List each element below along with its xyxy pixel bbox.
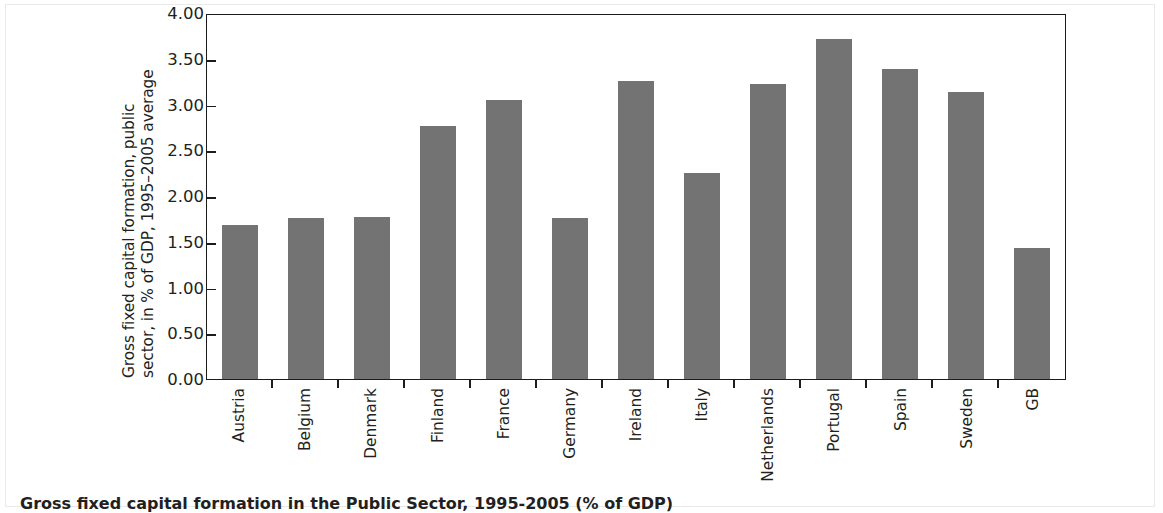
bar[interactable] — [288, 218, 325, 379]
bar-slot — [471, 15, 537, 379]
x-axis-label-slot: Germany — [537, 386, 603, 486]
y-axis-tick-label: 1.50 — [150, 235, 204, 252]
y-axis-tick-label: 1.00 — [150, 280, 204, 297]
bar-slot — [867, 15, 933, 379]
x-axis-category-label: Spain — [892, 388, 910, 431]
bar-slot — [537, 15, 603, 379]
y-axis-tick-label: 2.50 — [150, 143, 204, 160]
bar-slot — [405, 15, 471, 379]
x-axis-category-label: Italy — [693, 388, 711, 421]
y-axis-tick-label: 3.00 — [150, 97, 204, 114]
x-axis-label-slot: Portugal — [801, 386, 867, 486]
bar-slot — [207, 15, 273, 379]
bar-slot — [999, 15, 1065, 379]
x-axis-category-label: Ireland — [627, 388, 645, 441]
x-axis-category-label: France — [495, 388, 513, 439]
x-axis-label-slot: Sweden — [934, 386, 1000, 486]
x-axis-label-slot: Italy — [669, 386, 735, 486]
x-axis-label-slot: Ireland — [603, 386, 669, 486]
bar-series — [207, 15, 1065, 379]
y-axis-title: Gross fixed capital formation, public se… — [0, 0, 150, 385]
x-axis-label-slot: Austria — [206, 386, 272, 486]
bar[interactable] — [882, 69, 919, 379]
bar-slot — [339, 15, 405, 379]
x-axis-label-slot: Spain — [868, 386, 934, 486]
bar[interactable] — [354, 217, 391, 379]
bar[interactable] — [750, 84, 787, 379]
y-axis-tick-label: 4.00 — [150, 6, 204, 23]
bar[interactable] — [486, 100, 523, 379]
x-axis-label-slot: Denmark — [338, 386, 404, 486]
x-axis-label-slot: Finland — [404, 386, 470, 486]
bar[interactable] — [552, 218, 589, 379]
bar[interactable] — [618, 81, 655, 379]
x-axis-category-label: Portugal — [825, 388, 843, 452]
bar[interactable] — [816, 39, 853, 379]
bar-slot — [735, 15, 801, 379]
y-axis-tick-labels: 4.003.503.002.502.001.501.000.500.00 — [150, 14, 204, 380]
y-axis-tick-label: 2.00 — [150, 189, 204, 206]
x-axis-label-slot: Netherlands — [735, 386, 801, 486]
x-axis-category-label: Austria — [230, 388, 248, 442]
y-axis-tick-label: 0.50 — [150, 326, 204, 343]
x-axis-category-label: Germany — [561, 388, 579, 459]
x-axis-category-label: Sweden — [958, 388, 976, 449]
x-axis-category-label: Finland — [429, 388, 447, 443]
bar[interactable] — [1014, 248, 1051, 379]
x-axis-label-slot: Belgium — [272, 386, 338, 486]
y-axis-title-line-1: Gross fixed capital formation, public — [120, 104, 138, 378]
plot-area: 4.003.503.002.502.001.501.000.500.00 — [150, 14, 1066, 380]
bar[interactable] — [420, 126, 457, 379]
y-axis-tick-label: 3.50 — [150, 52, 204, 69]
x-axis-category-label: GB — [1024, 388, 1042, 411]
bar[interactable] — [948, 92, 985, 379]
x-axis-label-slot: GB — [1000, 386, 1066, 486]
bar-slot — [273, 15, 339, 379]
x-axis-category-label: Belgium — [296, 388, 314, 451]
y-axis-tick-label: 0.00 — [150, 372, 204, 389]
bar-slot — [669, 15, 735, 379]
bar-slot — [801, 15, 867, 379]
plot-frame — [206, 14, 1066, 380]
bar[interactable] — [684, 173, 721, 379]
bar[interactable] — [222, 225, 259, 379]
x-axis-label-slot: France — [471, 386, 537, 486]
x-axis-category-label: Netherlands — [759, 388, 777, 482]
figure-caption: Gross fixed capital formation in the Pub… — [20, 494, 1140, 513]
x-axis-category-label: Denmark — [362, 388, 380, 459]
bar-slot — [933, 15, 999, 379]
x-axis-category-labels: AustriaBelgiumDenmarkFinlandFranceGerman… — [206, 386, 1066, 486]
bar-slot — [603, 15, 669, 379]
